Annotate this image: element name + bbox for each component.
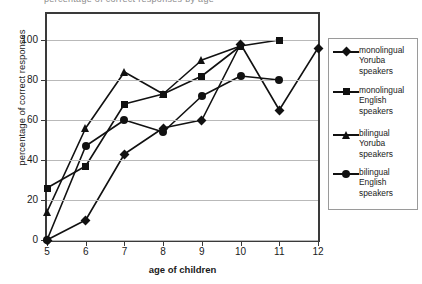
gridline bbox=[47, 160, 318, 161]
legend-item-triangle[interactable]: bilingual Yoruba speakers bbox=[333, 128, 417, 159]
x-tick-mark bbox=[202, 242, 203, 246]
data-point-triangle bbox=[159, 90, 167, 98]
legend-marker-circle-icon bbox=[333, 168, 359, 179]
x-tick-mark bbox=[124, 242, 125, 246]
legend-label: monolingual Yoruba speakers bbox=[359, 45, 404, 76]
data-point-circle bbox=[82, 142, 90, 150]
gridline bbox=[47, 200, 318, 201]
gridline bbox=[47, 240, 318, 241]
data-point-square bbox=[198, 73, 205, 80]
y-tick-label: 0 bbox=[8, 234, 38, 245]
data-point-square bbox=[276, 37, 283, 44]
data-point-triangle bbox=[236, 42, 244, 50]
x-tick-label: 9 bbox=[192, 246, 212, 257]
x-tick-label: 10 bbox=[231, 246, 251, 257]
legend-marker-triangle-icon bbox=[333, 129, 359, 140]
legend-item-circle[interactable]: bilingual English speakers bbox=[333, 167, 417, 198]
data-point-triangle bbox=[81, 124, 89, 132]
gridline bbox=[47, 120, 318, 121]
data-point-square bbox=[44, 185, 51, 192]
data-point-square bbox=[82, 163, 89, 170]
legend: monolingual Yoruba speakersmonolingual E… bbox=[328, 38, 418, 210]
data-point-triangle bbox=[43, 208, 51, 216]
x-tick-mark bbox=[318, 242, 319, 246]
chart-figure: percentage of correct responses by age 0… bbox=[0, 0, 422, 284]
data-point-triangle bbox=[197, 56, 205, 64]
x-tick-label: 5 bbox=[37, 246, 57, 257]
legend-item-diamond[interactable]: monolingual Yoruba speakers bbox=[333, 45, 417, 76]
legend-label: monolingual English speakers bbox=[359, 85, 404, 116]
data-point-circle bbox=[43, 236, 51, 244]
x-tick-label: 8 bbox=[153, 246, 173, 257]
legend-marker-diamond-icon bbox=[333, 46, 359, 57]
legend-label: bilingual English speakers bbox=[359, 167, 393, 198]
data-point-circle bbox=[198, 92, 206, 100]
x-tick-mark bbox=[241, 242, 242, 246]
data-point-circle bbox=[237, 72, 245, 80]
x-tick-label: 11 bbox=[269, 246, 289, 257]
x-tick-label: 6 bbox=[76, 246, 96, 257]
legend-marker-square-icon bbox=[333, 86, 359, 97]
legend-item-square[interactable]: monolingual English speakers bbox=[333, 85, 417, 116]
y-tick-label: 20 bbox=[8, 194, 38, 205]
x-tick-mark bbox=[86, 242, 87, 246]
x-tick-mark bbox=[163, 242, 164, 246]
x-tick-mark bbox=[279, 242, 280, 246]
legend-label: bilingual Yoruba speakers bbox=[359, 128, 393, 159]
x-axis-title: age of children bbox=[45, 264, 320, 275]
x-tick-label: 7 bbox=[114, 246, 134, 257]
data-point-square bbox=[121, 101, 128, 108]
x-tick-label: 12 bbox=[308, 246, 328, 257]
series-line bbox=[47, 76, 279, 240]
series-line bbox=[47, 46, 241, 212]
y-axis-title: percentage of correct responses bbox=[16, 23, 27, 173]
plot-area bbox=[45, 12, 320, 242]
cropped-title: percentage of correct responses by age bbox=[44, 0, 284, 4]
data-point-triangle bbox=[120, 68, 128, 76]
